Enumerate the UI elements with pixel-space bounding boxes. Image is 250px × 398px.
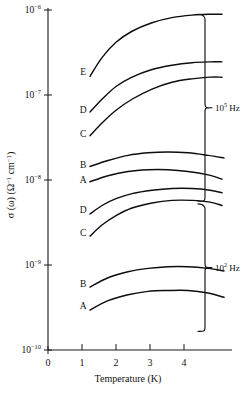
conductivity-vs-temperature-figure: 10−6 10−7 10−8 10−9 10−10 0 1	[0, 0, 250, 398]
curve-c-lower	[90, 200, 222, 236]
axes	[48, 8, 232, 350]
curve-label-d-upper: D	[80, 105, 87, 115]
x-tick-label: 4	[182, 357, 187, 368]
curve-b-upper	[90, 152, 224, 166]
brace-label-lower-group: 102 Hz	[215, 261, 240, 273]
curve-label-d-lower: D	[80, 205, 87, 215]
x-tick-label: 3	[148, 357, 153, 368]
brace-label-upper-group: 105 Hz	[215, 101, 240, 113]
x-tick-label: 0	[46, 357, 51, 368]
x-tick-label: 1	[80, 357, 85, 368]
data-curves	[90, 14, 224, 310]
curve-a-upper	[90, 170, 222, 182]
curve-a-lower	[90, 290, 224, 310]
curve-labels: EDCBADCBA	[80, 67, 87, 312]
y-tick-label: 10−8	[25, 173, 41, 185]
x-tick-label: 2	[114, 357, 119, 368]
y-axis-tick-labels: 10−6 10−7 10−8 10−9 10−10	[22, 3, 42, 355]
curve-label-c-lower: C	[80, 228, 86, 238]
y-tick-label: 10−6	[25, 3, 41, 15]
x-axis-title: Temperature (K)	[95, 373, 162, 385]
curve-c-upper	[90, 77, 222, 136]
y-axis-title: σ (ω) (Ω−1 cm−1)	[5, 152, 18, 219]
curve-label-a-lower: A	[80, 301, 87, 311]
curve-label-a-upper: A	[80, 175, 87, 185]
curve-label-b-upper: B	[80, 160, 86, 170]
curve-label-e: E	[80, 67, 86, 77]
y-tick-label: 10−10	[22, 343, 42, 355]
y-tick-label: 10−7	[25, 88, 42, 100]
curve-e	[90, 14, 222, 76]
x-axis-ticks	[48, 344, 184, 354]
y-tick-label: 10−9	[25, 258, 41, 270]
curve-b-lower	[90, 266, 224, 287]
curve-label-b-lower: B	[80, 279, 86, 289]
plot-canvas: 10−6 10−7 10−8 10−9 10−10 0 1	[0, 0, 250, 398]
x-axis-tick-labels: 0 1 2 3 4	[46, 357, 187, 368]
curve-label-c-upper: C	[80, 129, 86, 139]
